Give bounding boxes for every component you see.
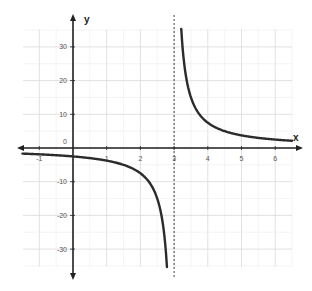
x-tick-label: -1 [36,155,42,162]
x-tick-label: 4 [206,155,210,162]
axes [17,14,303,280]
y-tick-label: -30 [57,246,67,253]
y-tick-label: 10 [59,111,67,118]
x-tick-label: 6 [273,155,277,162]
y-tick-label: 0 [63,138,67,145]
y-axis-up-arrow-icon [70,14,76,21]
x-tick-label: 3 [172,155,176,162]
y-axis-label: y [84,14,90,25]
y-tick-label: 20 [59,77,67,84]
y-tick-label: -10 [57,178,67,185]
x-tick-label: 5 [240,155,244,162]
curve-left-branch [22,154,166,267]
y-tick-label: 30 [59,43,67,50]
x-axis-right-arrow-icon [296,145,303,151]
function-graph: -11234563020100-10-20-30 x y [0,0,312,291]
y-tick-label: -20 [57,212,67,219]
x-tick-label: 2 [138,155,142,162]
y-axis-down-arrow-icon [70,273,76,280]
x-axis-left-arrow-icon [17,145,24,151]
x-axis-label: x [293,132,299,143]
